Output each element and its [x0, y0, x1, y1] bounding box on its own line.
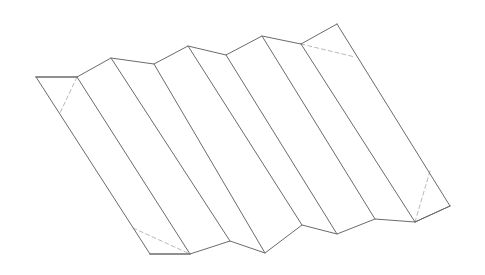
pleated-surface-figure: [0, 0, 485, 275]
